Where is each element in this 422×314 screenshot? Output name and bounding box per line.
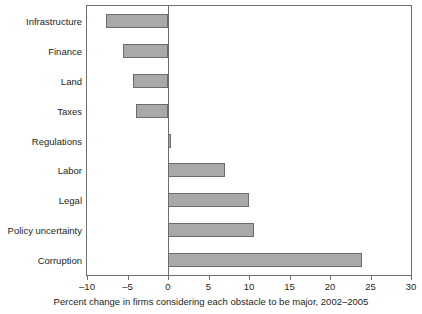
plot-area bbox=[87, 6, 411, 275]
bar-finance bbox=[123, 44, 168, 58]
x-tick-label: 20 bbox=[325, 281, 336, 292]
x-tick-mark bbox=[411, 276, 412, 280]
y-axis-label-infrastructure: Infrastructure bbox=[0, 16, 82, 27]
x-tick-mark bbox=[209, 276, 210, 280]
bar-legal bbox=[168, 193, 249, 207]
x-tick-mark bbox=[128, 276, 129, 280]
x-axis-title: Percent change in firms considering each… bbox=[0, 296, 422, 308]
x-tick-label: 30 bbox=[406, 281, 417, 292]
y-axis-label-taxes: Taxes bbox=[0, 106, 82, 117]
y-axis-label-corruption: Corruption bbox=[0, 255, 82, 266]
y-axis-category-labels: InfrastructureFinanceLandTaxesRegulation… bbox=[0, 5, 82, 276]
bar-labor bbox=[168, 163, 225, 177]
x-tick-mark bbox=[330, 276, 331, 280]
bar-land bbox=[133, 74, 168, 88]
x-tick-label: 5 bbox=[206, 281, 211, 292]
x-tick-label: 0 bbox=[165, 281, 170, 292]
bar-infrastructure bbox=[106, 14, 168, 28]
x-tick-mark bbox=[371, 276, 372, 280]
y-axis-label-labor: Labor bbox=[0, 165, 82, 176]
bar-taxes bbox=[136, 104, 168, 118]
y-axis-label-finance: Finance bbox=[0, 46, 82, 57]
bar-corruption bbox=[168, 253, 362, 267]
x-tick-label: –10 bbox=[79, 281, 95, 292]
x-tick-label: 25 bbox=[365, 281, 376, 292]
bar-policy-uncertainty bbox=[168, 223, 254, 237]
y-axis-label-legal: Legal bbox=[0, 195, 82, 206]
x-tick-mark bbox=[168, 276, 169, 280]
x-tick-mark bbox=[249, 276, 250, 280]
x-axis-ticks: –10–5051015202530 bbox=[86, 276, 412, 298]
x-tick-mark bbox=[87, 276, 88, 280]
y-axis-label-regulations: Regulations bbox=[0, 136, 82, 147]
bar-chart: InfrastructureFinanceLandTaxesRegulation… bbox=[0, 0, 422, 314]
x-tick-label: 15 bbox=[284, 281, 295, 292]
plot-frame bbox=[86, 5, 412, 276]
x-tick-label: –5 bbox=[122, 281, 133, 292]
x-tick-mark bbox=[290, 276, 291, 280]
y-axis-label-land: Land bbox=[0, 76, 82, 87]
y-axis-label-policy-uncertainty: Policy uncertainty bbox=[0, 225, 82, 236]
bar-regulations bbox=[168, 134, 171, 148]
x-tick-label: 10 bbox=[244, 281, 255, 292]
